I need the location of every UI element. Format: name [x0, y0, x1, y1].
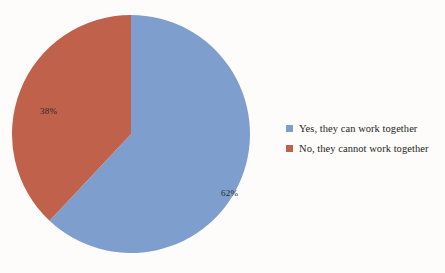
legend-item-no[interactable]: No, they cannot work together: [286, 138, 441, 158]
pie-chart-figure: 38% 62% Yes, they can work together No, …: [0, 0, 445, 273]
pie-slice-label-no: 38%: [40, 107, 57, 116]
legend-label-no: No, they cannot work together: [299, 143, 428, 154]
legend-swatch-yes-icon: [286, 125, 293, 132]
legend-swatch-no-icon: [286, 145, 293, 152]
pie-chart-graphic: 38% 62%: [12, 15, 250, 253]
pie-svg: [12, 15, 250, 253]
chart-legend: Yes, they can work together No, they can…: [286, 118, 441, 158]
pie-slice-label-yes: 62%: [221, 189, 238, 198]
legend-label-yes: Yes, they can work together: [299, 123, 417, 134]
legend-item-yes[interactable]: Yes, they can work together: [286, 118, 441, 138]
